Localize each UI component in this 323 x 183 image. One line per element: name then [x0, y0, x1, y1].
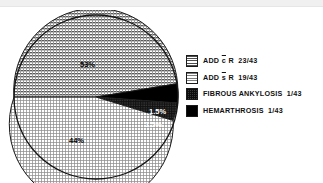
legend-value: 1/43 [268, 106, 283, 115]
pie-chart-area: 53% 44% 1.5% 1.5% [8, 10, 186, 183]
pie-label-fibrous-ankylosis: 1.5% [145, 120, 162, 129]
legend-item-add-c-r: ADD c R 23/43 [186, 53, 322, 70]
legend-value: 1/43 [287, 89, 302, 98]
scan-top-strip [0, 0, 323, 7]
legend-label-fibrous-ankylosis: FIBROUS ANKYLOSIS 1/43 [203, 89, 302, 99]
pie-chart-svg [8, 10, 186, 183]
pie-label-hemarthrosis: 1.5% [149, 107, 166, 116]
legend-prefix: HEMARTHROSIS [203, 106, 264, 115]
legend-label-add-c-r: ADD c R 23/43 [203, 56, 257, 66]
legend-swatch-light-dot-grid-icon [186, 72, 198, 84]
legend-prefix: ADD [203, 56, 219, 65]
legend-prefix: ADD [203, 73, 219, 82]
legend-prefix: FIBROUS ANKYLOSIS [203, 89, 282, 98]
legend-suffix: R [229, 73, 234, 82]
legend-item-fibrous-ankylosis: FIBROUS ANKYLOSIS 1/43 [186, 86, 322, 103]
pie-label-add-s-r: 44% [69, 136, 84, 145]
legend-value: 23/43 [238, 56, 257, 65]
legend-overline-char: s [221, 73, 226, 82]
chart-legend: ADD c R 23/43 ADD s R 19/43 FIBROUS ANKY… [186, 53, 322, 119]
pie-chart-figure: 53% 44% 1.5% 1.5% ADD c R 23/43 ADD s R … [0, 0, 323, 183]
legend-swatch-dense-dark-grid-icon [186, 88, 198, 100]
pie-slice-add-c-r [14, 10, 178, 97]
legend-label-hemarthrosis: HEMARTHROSIS 1/43 [203, 106, 283, 116]
legend-item-hemarthrosis: HEMARTHROSIS 1/43 [186, 103, 322, 120]
legend-item-add-s-r: ADD s R 19/43 [186, 70, 322, 87]
legend-value: 19/43 [238, 73, 257, 82]
pie-label-add-c-r: 53% [80, 60, 95, 69]
legend-swatch-horizontal-lines-icon [186, 55, 198, 67]
legend-suffix: R [229, 56, 234, 65]
legend-overline-char: c [221, 56, 226, 65]
legend-swatch-solid-black-icon [186, 105, 198, 117]
legend-label-add-s-r: ADD s R 19/43 [203, 73, 257, 83]
